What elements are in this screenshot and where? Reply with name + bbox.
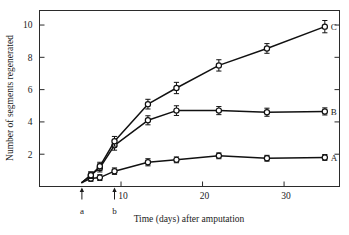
regeneration-line-chart: 246810 102030 ABC ab Time (days) after a… — [0, 0, 349, 235]
data-point — [174, 108, 179, 113]
series-label-B: B — [331, 107, 337, 117]
data-point — [264, 46, 269, 51]
y-tick-label: 10 — [23, 20, 33, 30]
data-point — [264, 110, 269, 115]
data-point — [88, 173, 93, 178]
x-axis-title: Time (days) after amputation — [134, 214, 245, 225]
chart-background — [0, 0, 349, 235]
data-point — [216, 63, 221, 68]
data-point — [322, 155, 327, 160]
x-tick-label: 10 — [118, 191, 128, 201]
data-point — [216, 153, 221, 158]
series-label-C: C — [331, 22, 337, 32]
x-tick-label: 20 — [200, 191, 210, 201]
data-point — [145, 160, 150, 165]
data-point — [97, 175, 102, 180]
data-point — [145, 118, 150, 123]
data-point — [322, 109, 327, 114]
data-point — [97, 164, 102, 169]
y-tick-label: 8 — [28, 53, 33, 63]
data-point — [216, 108, 221, 113]
y-axis-title: Number of segments regenerated — [5, 35, 15, 161]
data-point — [322, 24, 327, 29]
data-point — [174, 85, 179, 90]
data-point — [264, 156, 269, 161]
data-point — [145, 102, 150, 107]
series-label-A: A — [331, 153, 338, 163]
annotation-label-b: b — [112, 206, 117, 216]
y-tick-label: 2 — [28, 150, 33, 160]
data-point — [112, 139, 117, 144]
annotation-label-a: a — [80, 206, 84, 216]
y-tick-label: 6 — [28, 85, 33, 95]
data-point — [174, 157, 179, 162]
figure-container: 246810 102030 ABC ab Time (days) after a… — [0, 0, 349, 235]
y-tick-label: 4 — [28, 117, 33, 127]
x-tick-label: 30 — [281, 191, 291, 201]
data-point — [112, 169, 117, 174]
